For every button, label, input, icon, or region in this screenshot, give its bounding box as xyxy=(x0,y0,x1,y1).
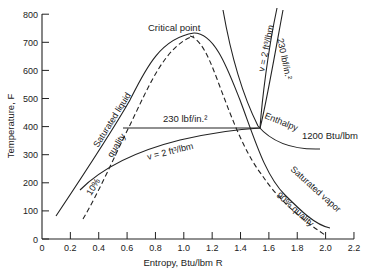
x-tick-label: 2.2 xyxy=(348,243,361,253)
y-tick-label: 200 xyxy=(23,178,38,188)
y-tick-label: 300 xyxy=(23,150,38,160)
saturated-liquid-label: Saturated liquid xyxy=(91,91,133,149)
y-tick-label: 400 xyxy=(23,122,38,132)
enthalpy-word-label: Enthalpy xyxy=(263,111,300,134)
enthalpy-value-label: 1200 Btu/lbm xyxy=(302,130,358,141)
y-ticks: 0100200300400500600700800 xyxy=(23,10,49,245)
x-tick-label: 1.8 xyxy=(291,243,304,253)
volume-2-label: v = 2 ft³/lbm xyxy=(146,141,194,162)
pressure-230-right-label: 230 lbf/in.² xyxy=(275,37,294,80)
x-tick-label: 1.6 xyxy=(263,243,276,253)
axes xyxy=(42,14,354,239)
x-ticks: 00.20.40.60.81.01.21.41.61.82.02.2 xyxy=(39,232,360,253)
y-tick-label: 600 xyxy=(23,66,38,76)
saturated-liquid-curve xyxy=(56,33,194,216)
y-tick-label: 800 xyxy=(23,10,38,20)
x-axis-label: Entropy, Btu/lbm R xyxy=(143,257,222,268)
y-tick-label: 500 xyxy=(23,94,38,104)
critical-point-label: Critical point xyxy=(148,22,201,33)
y-tick-label: 700 xyxy=(23,38,38,48)
ts-diagram: 0100200300400500600700800 00.20.40.60.81… xyxy=(0,0,370,273)
quality-10-label: 10% xyxy=(84,176,102,197)
x-tick-label: 0.6 xyxy=(121,243,134,253)
y-tick-label: 0 xyxy=(33,235,38,245)
x-tick-label: 0.8 xyxy=(149,243,162,253)
x-tick-label: 0.4 xyxy=(92,243,105,253)
y-axis-label: Temperature, F xyxy=(5,94,16,159)
x-tick-label: 2.0 xyxy=(319,243,332,253)
x-tick-label: 1.4 xyxy=(234,243,247,253)
y-tick-label: 100 xyxy=(23,206,38,216)
x-tick-label: 1.0 xyxy=(178,243,191,253)
x-tick-label: 0 xyxy=(39,243,44,253)
x-tick-label: 1.2 xyxy=(206,243,219,253)
quality-90-label: 90% quality xyxy=(275,190,317,229)
pressure-230-label: 230 lbf/in.² xyxy=(163,113,207,124)
x-tick-label: 0.2 xyxy=(64,243,77,253)
volume-2-line xyxy=(80,8,277,190)
